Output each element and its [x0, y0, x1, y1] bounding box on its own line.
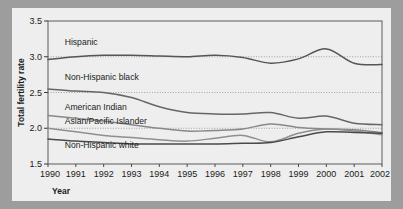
x-tick-label: 1994 — [149, 169, 169, 179]
x-tick-label: 1993 — [121, 169, 141, 179]
x-tick-label: 1992 — [94, 169, 114, 179]
series-label: Non-Hispanic white — [65, 140, 139, 150]
x-tick-label: 1996 — [205, 169, 225, 179]
x-tick-label: 1991 — [66, 169, 86, 179]
y-tick-label: 2.0 — [29, 123, 42, 133]
x-tick-label: 1997 — [233, 169, 253, 179]
x-tick-label: 2001 — [344, 169, 364, 179]
x-tick-label: 1998 — [261, 169, 281, 179]
y-tick-label: 2.5 — [29, 88, 42, 98]
x-tick-label: 2002 — [370, 169, 390, 179]
y-tick-label: 3.0 — [29, 52, 42, 62]
series-label: American Indian — [65, 102, 127, 112]
x-tick-label: 2000 — [316, 169, 336, 179]
y-axis-title: Total fertility rate — [16, 58, 26, 127]
y-tick-label: 1.5 — [29, 159, 42, 169]
x-axis-title: Year — [52, 186, 71, 196]
fertility-rate-line-chart: 1.52.02.53.03.5 199019911992199319941995… — [12, 8, 391, 201]
x-tick-label: 1995 — [177, 169, 197, 179]
chart-figure: 1.52.02.53.03.5 199019911992199319941995… — [12, 8, 391, 201]
series-label: Hispanic — [65, 37, 99, 47]
x-tick-label: 1999 — [288, 169, 308, 179]
series-label: Asian/Pacific Islander — [65, 116, 147, 126]
series-label: Non-Hispanic black — [65, 72, 140, 82]
x-tick-label: 1990 — [40, 169, 60, 179]
y-tick-label: 3.5 — [29, 16, 42, 26]
